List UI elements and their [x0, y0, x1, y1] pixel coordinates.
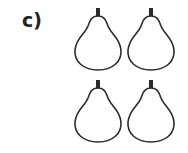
pear-icon: [72, 78, 124, 144]
exercise-label: c): [22, 11, 42, 30]
pear-icon: [72, 6, 124, 72]
pear-icon: [125, 78, 177, 144]
pear-icon: [125, 6, 177, 72]
